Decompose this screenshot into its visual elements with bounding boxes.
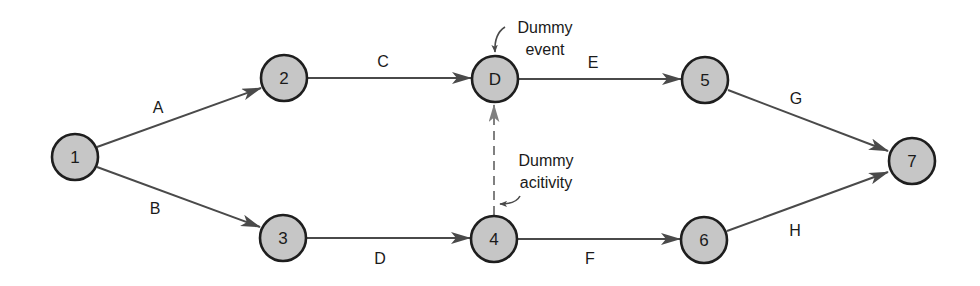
node-6: 6 <box>681 217 727 263</box>
edge-g-arrow <box>728 90 888 151</box>
edge-label-e: E <box>588 54 599 71</box>
edge-label-c: C <box>377 53 389 70</box>
network-diagram: A B C D E F G H 1 2 3 D 4 5 <box>0 0 980 286</box>
node-5: 5 <box>682 57 728 103</box>
dummy-event-text-line2: event <box>525 41 565 58</box>
edge-h-arrow <box>727 172 888 231</box>
dummy-event-pointer-icon <box>495 27 505 52</box>
dummy-event-text-line1: Dummy <box>517 19 572 36</box>
edge-label-h: H <box>789 222 801 239</box>
svg-text:1: 1 <box>70 148 79 167</box>
node-d-dummy-event: D <box>472 56 518 102</box>
edge-label-b: B <box>150 200 161 217</box>
node-7: 7 <box>889 138 935 184</box>
node-1: 1 <box>52 134 98 180</box>
nodes: 1 2 3 D 4 5 6 7 <box>52 55 935 263</box>
edge-label-f: F <box>585 250 595 267</box>
dummy-event-annotation: Dummy event <box>495 19 573 58</box>
edge-label-a: A <box>153 99 164 116</box>
dummy-activity-text-line2: acitivity <box>520 174 572 191</box>
node-4: 4 <box>471 216 517 262</box>
dummy-activity-annotation: Dummy acitivity <box>500 152 574 204</box>
svg-text:3: 3 <box>278 229 287 248</box>
edge-b-arrow <box>97 167 260 227</box>
edge-label-d: D <box>374 250 386 267</box>
edge-label-g: G <box>790 90 802 107</box>
node-3: 3 <box>260 215 306 261</box>
dummy-activity-text-line1: Dummy <box>518 152 573 169</box>
dummy-activity-pointer-icon <box>500 196 520 204</box>
svg-text:D: D <box>489 70 501 89</box>
edge-a-arrow <box>97 88 261 147</box>
svg-text:6: 6 <box>699 231 708 250</box>
svg-text:5: 5 <box>700 71 709 90</box>
svg-text:2: 2 <box>279 69 288 88</box>
svg-text:4: 4 <box>489 230 498 249</box>
node-2: 2 <box>261 55 307 101</box>
svg-text:7: 7 <box>907 152 916 171</box>
